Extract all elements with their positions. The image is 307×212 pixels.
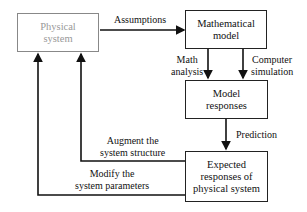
label-line: simulation bbox=[251, 66, 293, 78]
label-line: Computer bbox=[251, 54, 293, 66]
prediction-label: Prediction bbox=[236, 129, 277, 141]
node-text: Mathematical bbox=[197, 18, 255, 30]
node-text: model bbox=[213, 30, 239, 42]
expected-responses-node: Expected responses of physical system bbox=[185, 151, 268, 202]
node-text: system bbox=[43, 33, 72, 45]
label-line: Modify the bbox=[75, 168, 149, 180]
mathematical-model-node: Mathematical model bbox=[185, 10, 267, 49]
label-line: Math bbox=[171, 54, 203, 66]
modify-label: Modify the system parameters bbox=[75, 168, 149, 191]
node-text: Expected bbox=[207, 159, 246, 171]
node-text: Physical bbox=[40, 21, 76, 33]
math-analysis-label: Math analysis bbox=[171, 54, 203, 77]
node-text: Model bbox=[213, 88, 240, 100]
label-line: system structure bbox=[100, 147, 165, 159]
node-text: responses of bbox=[200, 171, 252, 183]
physical-system-node: Physical system bbox=[17, 13, 99, 52]
model-responses-node: Model responses bbox=[185, 80, 268, 119]
augment-label: Augment the system structure bbox=[100, 135, 165, 158]
label-line: analysis bbox=[171, 66, 203, 78]
node-text: responses bbox=[206, 100, 247, 112]
label-line: Augment the bbox=[100, 135, 165, 147]
node-text: physical system bbox=[193, 183, 260, 195]
label-line: system parameters bbox=[75, 180, 149, 192]
assumptions-label: Assumptions bbox=[114, 14, 166, 26]
computer-simulation-label: Computer simulation bbox=[251, 54, 293, 77]
